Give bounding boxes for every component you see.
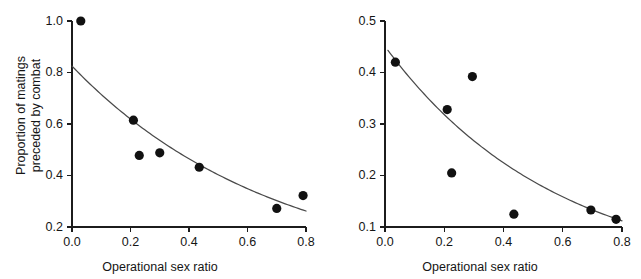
chart-panel-right: 0.10.20.30.40.50.00.20.40.60.8 Operation… [320, 0, 640, 279]
x-tick-label: 0.4 [495, 235, 512, 249]
y-tick-label: 0.4 [46, 168, 63, 182]
data-point [509, 210, 518, 219]
data-point [76, 16, 85, 25]
data-point [195, 163, 204, 172]
y-tick-label: 0.1 [359, 220, 376, 234]
figure-container: 0.20.40.60.81.00.00.20.40.60.8 Operation… [0, 0, 641, 279]
x-tick-label: 0.4 [180, 235, 197, 249]
data-point [391, 58, 400, 67]
fitted-curve [72, 66, 306, 211]
data-point [155, 148, 164, 157]
x-tick-label: 0.0 [376, 235, 393, 249]
x-tick-label: 0.0 [63, 235, 80, 249]
x-tick-label: 0.2 [122, 235, 139, 249]
y-tick-label: 0.2 [46, 220, 63, 234]
chart-plot-right: 0.10.20.30.40.50.00.20.40.60.8 [320, 0, 640, 279]
data-point [468, 72, 477, 81]
axis-spines [385, 21, 622, 227]
y-axis-title-left: Proportion of matings preceded by combat [14, 13, 44, 218]
x-axis-title-left: Operational sex ratio [0, 260, 320, 275]
data-point [135, 151, 144, 160]
x-tick-label: 0.6 [239, 235, 256, 249]
y-tick-label: 0.8 [46, 65, 63, 79]
y-axis-title-left-line2: preceded by combat [29, 13, 44, 218]
y-tick-label: 0.6 [46, 117, 63, 131]
fitted-curve [388, 50, 622, 220]
x-tick-label: 0.6 [554, 235, 571, 249]
data-point [298, 191, 307, 200]
data-point [586, 205, 595, 214]
y-tick-label: 0.3 [359, 117, 376, 131]
chart-panel-left: 0.20.40.60.81.00.00.20.40.60.8 Operation… [0, 0, 320, 279]
data-point [443, 105, 452, 114]
axis-spines [72, 21, 306, 227]
data-point [272, 204, 281, 213]
x-tick-label: 0.8 [297, 235, 314, 249]
x-tick-label: 0.8 [613, 235, 630, 249]
data-point [611, 215, 620, 224]
data-point [447, 168, 456, 177]
y-tick-label: 0.2 [359, 168, 376, 182]
data-point [129, 116, 138, 125]
x-tick-label: 0.2 [436, 235, 453, 249]
chart-plot-left: 0.20.40.60.81.00.00.20.40.60.8 [0, 0, 320, 279]
y-tick-label: 0.5 [359, 14, 376, 28]
x-axis-title-right: Operational sex ratio [320, 260, 640, 275]
y-tick-label: 1.0 [46, 14, 63, 28]
y-tick-label: 0.4 [359, 65, 376, 79]
y-axis-title-left-line1: Proportion of matings [14, 13, 29, 218]
